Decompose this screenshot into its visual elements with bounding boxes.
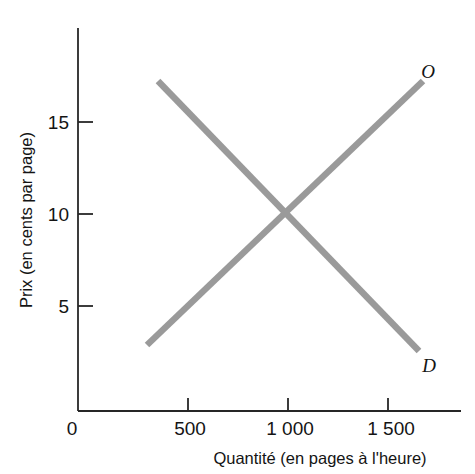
x-axis-title: Quantité (en pages à l'heure) bbox=[213, 449, 426, 467]
y-tick-label-15: 15 bbox=[48, 112, 69, 133]
x-tick-label-1000: 1 000 bbox=[266, 418, 314, 439]
y-tick-label-10: 10 bbox=[48, 204, 69, 225]
demand-curve-label: D bbox=[421, 355, 436, 376]
y-tick-label-5: 5 bbox=[58, 296, 69, 317]
x-tick-label-1500: 1 500 bbox=[367, 418, 415, 439]
supply-demand-chart: 15 10 5 0 500 1 000 1 500 Prix (en cents… bbox=[0, 0, 475, 474]
supply-curve bbox=[147, 81, 423, 345]
x-tick-label-500: 500 bbox=[174, 418, 206, 439]
x-tick-label-0: 0 bbox=[67, 418, 78, 439]
supply-curve-label: O bbox=[421, 61, 435, 82]
y-axis-title: Prix (en cents par page) bbox=[17, 132, 35, 308]
chart-figure: 15 10 5 0 500 1 000 1 500 Prix (en cents… bbox=[0, 0, 475, 474]
